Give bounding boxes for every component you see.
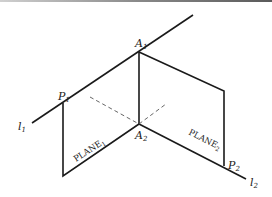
dashed-line-left (90, 97, 139, 124)
label-p2: P2 (227, 159, 240, 173)
label-a1: A1 (134, 37, 147, 51)
plane1-outline (63, 103, 139, 176)
dashed-line-right (139, 104, 166, 124)
label-l1: l1 (18, 120, 26, 134)
label-l2: l2 (250, 176, 259, 190)
line-l1 (32, 15, 193, 123)
label-a2: A2 (134, 129, 148, 143)
plane2-outline (139, 52, 224, 166)
label-p1: P1 (57, 90, 70, 104)
planes-diagram: A1 P1 A2 P2 l1 l2 PLANE1 PLANE2 (0, 0, 272, 197)
label-plane2: PLANE2 (187, 127, 223, 153)
